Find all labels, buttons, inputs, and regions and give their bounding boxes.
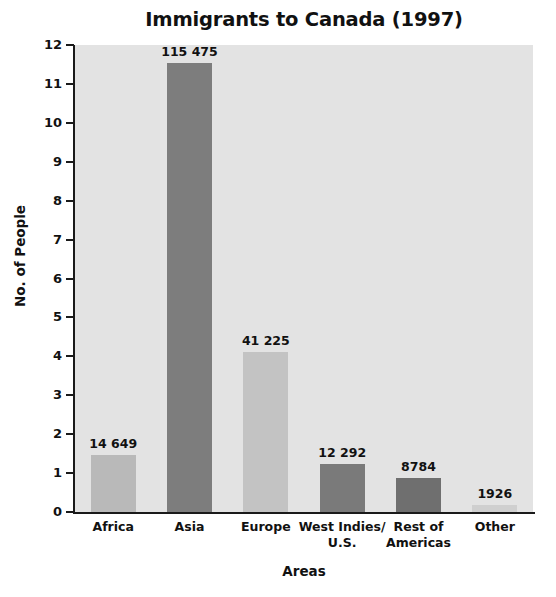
y-axis-tick-label: 11: [24, 77, 62, 90]
x-axis-title: Areas: [75, 563, 533, 579]
bar[interactable]: [320, 464, 365, 512]
x-axis-tick-label-line: Other: [440, 519, 550, 535]
bar[interactable]: [472, 505, 517, 512]
y-axis-tick-label: 7: [24, 233, 62, 246]
bar-value-label: 1926: [440, 488, 550, 501]
y-axis-tick-label: 8: [24, 194, 62, 207]
bar-value-label: 8784: [364, 461, 474, 474]
y-axis-tick-label: 12: [24, 38, 62, 51]
y-axis-tick: [66, 200, 74, 202]
y-axis-tick: [66, 355, 74, 357]
y-axis-tick-label: 3: [24, 388, 62, 401]
bar-value-label: 115 475: [135, 46, 245, 59]
y-axis-tick-label: 10: [24, 116, 62, 129]
plot-area: 14 649115 47541 22512 29287841926: [75, 45, 533, 512]
x-axis-line: [73, 512, 535, 514]
y-axis-tick: [66, 472, 74, 474]
y-axis-tick: [66, 122, 74, 124]
x-axis-tick-label-line: Americas: [364, 535, 474, 551]
y-axis-tick-label: 1: [24, 466, 62, 479]
y-axis-tick-label: 0: [24, 505, 62, 518]
y-axis-tick-label: 2: [24, 427, 62, 440]
bar[interactable]: [91, 455, 136, 512]
y-axis-tick: [66, 161, 74, 163]
y-axis-tick-label: 5: [24, 310, 62, 323]
y-axis-tick: [66, 394, 74, 396]
bar-chart-figure: Immigrants to Canada (1997) 14 649115 47…: [0, 0, 556, 597]
y-axis-tick-label: 6: [24, 272, 62, 285]
chart-title: Immigrants to Canada (1997): [75, 8, 533, 31]
bar[interactable]: [243, 352, 288, 512]
bar-value-label: 12 292: [287, 447, 397, 460]
y-axis-tick: [66, 511, 74, 513]
y-axis-tick: [66, 83, 74, 85]
y-axis-tick: [66, 433, 74, 435]
bar-value-label: 41 225: [211, 335, 321, 348]
y-axis-title: No. of People: [12, 196, 28, 316]
y-axis-tick: [66, 316, 74, 318]
y-axis-tick: [66, 278, 74, 280]
y-axis-tick: [66, 239, 74, 241]
y-axis-tick-label: 9: [24, 155, 62, 168]
bar[interactable]: [167, 63, 212, 512]
bar[interactable]: [396, 478, 441, 512]
y-axis-tick: [66, 44, 74, 46]
x-axis-tick-label: Other: [440, 519, 550, 535]
y-axis-tick-label: 4: [24, 349, 62, 362]
